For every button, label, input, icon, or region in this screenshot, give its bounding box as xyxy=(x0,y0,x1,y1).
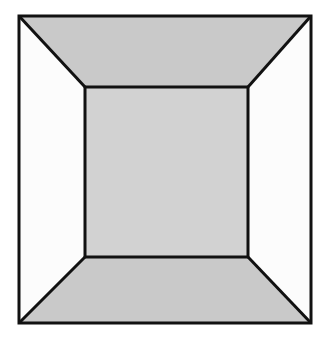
face-back-wall xyxy=(85,87,248,257)
perspective-box-figure xyxy=(0,0,330,348)
figure-canvas xyxy=(0,0,330,348)
